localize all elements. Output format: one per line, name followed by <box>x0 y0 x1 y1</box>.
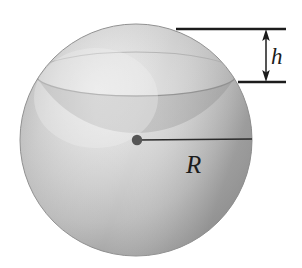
radius-line <box>137 139 252 140</box>
sphere-highlight <box>34 48 158 148</box>
cap-height-label: h <box>271 45 283 68</box>
figure-canvas <box>0 0 302 268</box>
sphere-radius-label: R <box>186 152 201 177</box>
sphere-center-dot <box>132 135 142 145</box>
sphere-cap-figure: h R <box>0 0 302 268</box>
